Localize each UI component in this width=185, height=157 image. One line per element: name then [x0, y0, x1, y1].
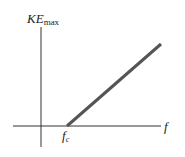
ke-line [67, 44, 161, 126]
x-axis-label: f [164, 119, 170, 134]
ke-vs-frequency-diagram: KEmax fc f [0, 0, 185, 157]
threshold-frequency-label: fc [62, 128, 70, 144]
y-axis-label: KEmax [26, 11, 60, 27]
